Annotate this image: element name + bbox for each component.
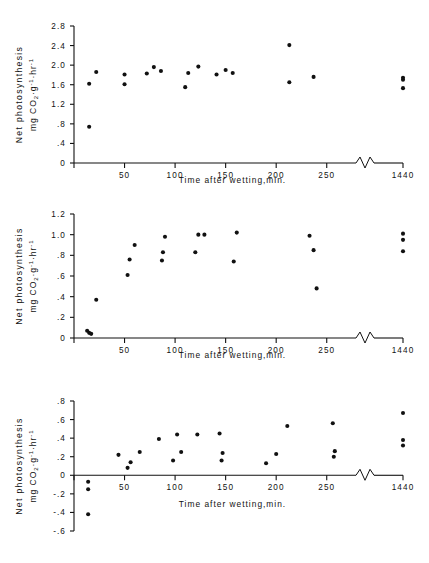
data-point — [315, 286, 319, 290]
data-point — [94, 70, 98, 74]
x-tick-label: 250 — [318, 483, 335, 492]
y-tick-label: .2 — [57, 313, 66, 322]
data-point — [122, 72, 126, 76]
data-point — [145, 71, 149, 75]
data-point — [196, 233, 200, 237]
scatter-figure: 0.4.81.21.62.02.42.8501001502002501440Ti… — [0, 0, 429, 563]
y-axis-title-line2: mg CO2·g-1·hr-1 — [28, 430, 39, 503]
data-point — [220, 458, 224, 462]
y-tick-label: .8 — [57, 397, 66, 406]
data-point — [86, 487, 90, 491]
data-point — [179, 450, 183, 454]
data-point — [401, 438, 405, 442]
chart-panel-1: 0.4.81.21.62.02.42.8501001502002501440Ti… — [0, 0, 429, 188]
y-tick-label: 0 — [60, 334, 66, 343]
data-point — [214, 72, 218, 76]
x-tick-label: 50 — [119, 171, 130, 180]
y-axis-title-line1: Net photosynthesis — [14, 417, 24, 514]
y-tick-label: .8 — [57, 120, 66, 129]
y-tick-label: -.2 — [53, 490, 66, 499]
data-point — [86, 480, 90, 484]
data-point — [401, 78, 405, 82]
data-point — [152, 65, 156, 69]
x-axis-title: Time after wetting,min. — [179, 175, 286, 185]
y-tick-label: 1.2 — [51, 210, 66, 219]
data-point — [175, 432, 179, 436]
data-point — [94, 298, 98, 302]
chart-svg-1: 0.4.81.21.62.02.42.8501001502002501440Ti… — [0, 0, 429, 188]
y-tick-label: 2.8 — [51, 22, 66, 31]
chart-panel-2: 0.2.4.6.81.01.2501001502002501440Time af… — [0, 188, 429, 376]
y-tick-label: 2.4 — [51, 42, 66, 51]
data-point — [224, 68, 228, 72]
y-tick-label: .4 — [57, 293, 66, 302]
data-point — [157, 437, 161, 441]
data-point — [232, 259, 236, 263]
data-point — [231, 71, 235, 75]
data-point — [312, 248, 316, 252]
y-tick-label: .4 — [57, 139, 66, 148]
data-point — [116, 453, 120, 457]
data-point — [307, 234, 311, 238]
y-tick-label: 0 — [60, 159, 66, 168]
y-axis-title-line2: mg CO2·g-1·hr-1 — [28, 58, 39, 131]
y-tick-label: .4 — [57, 434, 66, 443]
data-point — [401, 232, 405, 236]
y-axis-title-line1: Net photosynthesis — [14, 46, 24, 143]
x-tick-label: 1440 — [392, 346, 415, 355]
data-point — [196, 65, 200, 69]
data-point — [86, 512, 90, 516]
chart-panel-3: -.6-.4-.20.2.4.6.8501001502002501440Time… — [0, 375, 429, 563]
x-tick-label: 1440 — [392, 483, 415, 492]
y-tick-label: 1.2 — [51, 100, 66, 109]
data-point — [285, 424, 289, 428]
x-tick-label: 250 — [318, 346, 335, 355]
x-axis-title: Time after wetting,min. — [179, 350, 286, 360]
data-point — [332, 455, 336, 459]
chart-svg-2: 0.2.4.6.81.01.2501001502002501440Time af… — [0, 188, 429, 376]
data-point — [401, 444, 405, 448]
data-point — [128, 257, 132, 261]
data-point — [195, 432, 199, 436]
x-axis-title: Time after wetting,min. — [179, 499, 286, 509]
data-point — [287, 80, 291, 84]
data-point — [129, 460, 133, 464]
data-point — [126, 466, 130, 470]
data-point — [221, 451, 225, 455]
y-tick-label: -.4 — [53, 508, 66, 517]
data-point — [401, 411, 405, 415]
data-point — [401, 249, 405, 253]
data-point — [186, 71, 190, 75]
data-point — [264, 461, 268, 465]
axis-break-icon — [356, 469, 374, 480]
data-point — [193, 250, 197, 254]
data-point — [163, 235, 167, 239]
data-point — [333, 449, 337, 453]
data-point — [202, 233, 206, 237]
data-point — [183, 85, 187, 89]
y-tick-label: 0 — [60, 471, 66, 480]
y-tick-label: -.6 — [53, 527, 66, 536]
y-tick-label: .2 — [57, 453, 66, 462]
y-tick-label: .8 — [57, 251, 66, 260]
data-point — [274, 452, 278, 456]
chart-svg-3: -.6-.4-.20.2.4.6.8501001502002501440Time… — [0, 375, 429, 563]
y-tick-label: 1.0 — [51, 231, 66, 240]
data-point — [401, 238, 405, 242]
data-point — [218, 431, 222, 435]
data-point — [331, 421, 335, 425]
data-point — [159, 69, 163, 73]
x-tick-label: 50 — [119, 483, 130, 492]
y-tick-label: .6 — [57, 272, 66, 281]
data-point — [89, 332, 93, 336]
data-point — [235, 231, 239, 235]
x-tick-label: 150 — [217, 483, 234, 492]
data-point — [161, 250, 165, 254]
data-point — [312, 75, 316, 79]
axis-break-icon — [356, 157, 374, 168]
data-point — [401, 86, 405, 90]
y-axis-title-line2: mg CO2·g-1·hr-1 — [28, 240, 39, 313]
data-point — [126, 273, 130, 277]
y-tick-label: 2.0 — [51, 61, 66, 70]
axis-break-icon — [356, 332, 374, 343]
